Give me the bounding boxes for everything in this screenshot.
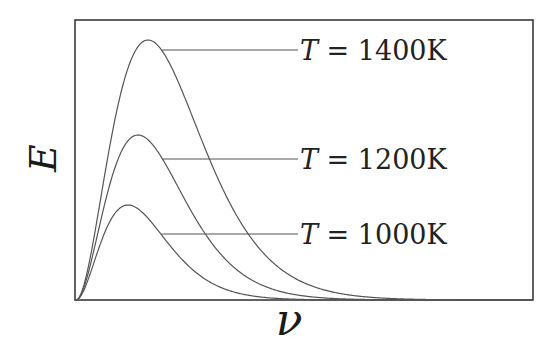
series-label-1200k: T = 1200K [300,144,448,175]
blackbody-chart: T = 1400K T = 1200K T = 1000K E ν [0,0,560,353]
y-axis-label: E [21,144,65,173]
series-labels: T = 1400K T = 1200K T = 1000K [300,35,448,250]
series-label-1000k: T = 1000K [300,219,448,250]
x-axis-label: ν [276,294,303,345]
leader-lines [162,50,298,234]
series-label-1400k: T = 1400K [300,35,448,66]
